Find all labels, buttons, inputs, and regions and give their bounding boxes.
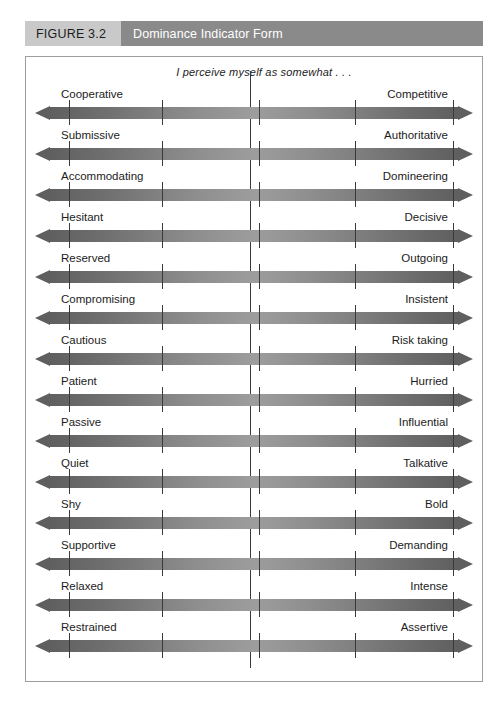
scale-tick-1[interactable]	[69, 141, 70, 166]
scale-tick-2[interactable]	[162, 592, 163, 617]
scale-tick-3[interactable]	[259, 223, 260, 248]
scale-tick-3[interactable]	[259, 141, 260, 166]
scale-tick-5[interactable]	[453, 264, 454, 289]
scale-tick-4[interactable]	[355, 592, 356, 617]
scale-tick-4[interactable]	[355, 469, 356, 494]
scale-tick-5[interactable]	[453, 592, 454, 617]
scale-row-11[interactable]: Shy Bold	[26, 495, 482, 536]
scale-tick-4[interactable]	[355, 551, 356, 576]
scale-tick-3[interactable]	[259, 305, 260, 330]
scale-arrow-bar[interactable]	[49, 148, 459, 160]
scale-row-2[interactable]: Submissive Authoritative	[26, 126, 482, 167]
scale-arrow-bar[interactable]	[49, 517, 459, 529]
scale-arrow-bar[interactable]	[49, 189, 459, 201]
scale-tick-2[interactable]	[162, 633, 163, 658]
scale-tick-1[interactable]	[69, 469, 70, 494]
scale-tick-4[interactable]	[355, 346, 356, 371]
scale-tick-2[interactable]	[162, 141, 163, 166]
scale-tick-2[interactable]	[162, 100, 163, 125]
scale-tick-5[interactable]	[453, 141, 454, 166]
scale-arrow-track[interactable]	[35, 147, 473, 161]
scale-arrow-bar[interactable]	[49, 230, 459, 242]
scale-tick-1[interactable]	[69, 346, 70, 371]
scale-tick-3[interactable]	[259, 264, 260, 289]
scale-arrow-track[interactable]	[35, 639, 473, 653]
scale-tick-1[interactable]	[69, 264, 70, 289]
scale-arrow-bar[interactable]	[49, 599, 459, 611]
scale-arrow-bar[interactable]	[49, 312, 459, 324]
scale-row-3[interactable]: Accommodating Domineering	[26, 167, 482, 208]
scale-tick-2[interactable]	[162, 469, 163, 494]
scale-row-4[interactable]: Hesitant Decisive	[26, 208, 482, 249]
scale-row-13[interactable]: Relaxed Intense	[26, 577, 482, 618]
scale-arrow-track[interactable]	[35, 311, 473, 325]
scale-arrow-track[interactable]	[35, 475, 473, 489]
scale-arrow-track[interactable]	[35, 557, 473, 571]
scale-tick-4[interactable]	[355, 387, 356, 412]
scale-tick-3[interactable]	[259, 551, 260, 576]
scale-arrow-track[interactable]	[35, 229, 473, 243]
scale-tick-5[interactable]	[453, 510, 454, 535]
scale-tick-5[interactable]	[453, 387, 454, 412]
scale-arrow-bar[interactable]	[49, 558, 459, 570]
scale-row-8[interactable]: Patient Hurried	[26, 372, 482, 413]
scale-arrow-track[interactable]	[35, 516, 473, 530]
scale-arrow-bar[interactable]	[49, 353, 459, 365]
scale-tick-3[interactable]	[259, 469, 260, 494]
scale-tick-2[interactable]	[162, 264, 163, 289]
scale-tick-5[interactable]	[453, 428, 454, 453]
scale-tick-3[interactable]	[259, 510, 260, 535]
scale-tick-4[interactable]	[355, 305, 356, 330]
scale-tick-5[interactable]	[453, 182, 454, 207]
scale-arrow-track[interactable]	[35, 434, 473, 448]
scale-tick-3[interactable]	[259, 387, 260, 412]
scale-tick-2[interactable]	[162, 551, 163, 576]
scale-tick-2[interactable]	[162, 428, 163, 453]
scale-tick-2[interactable]	[162, 182, 163, 207]
scale-tick-4[interactable]	[355, 428, 356, 453]
scale-tick-5[interactable]	[453, 223, 454, 248]
scale-arrow-bar[interactable]	[49, 271, 459, 283]
scale-row-9[interactable]: Passive Influential	[26, 413, 482, 454]
scale-row-7[interactable]: Cautious Risk taking	[26, 331, 482, 372]
scale-arrow-track[interactable]	[35, 270, 473, 284]
scale-tick-4[interactable]	[355, 100, 356, 125]
scale-tick-1[interactable]	[69, 387, 70, 412]
scale-tick-2[interactable]	[162, 387, 163, 412]
scale-arrow-bar[interactable]	[49, 107, 459, 119]
scale-arrow-bar[interactable]	[49, 640, 459, 652]
scale-tick-5[interactable]	[453, 551, 454, 576]
scale-tick-4[interactable]	[355, 633, 356, 658]
scale-tick-4[interactable]	[355, 141, 356, 166]
scale-tick-3[interactable]	[259, 182, 260, 207]
scale-tick-2[interactable]	[162, 346, 163, 371]
scale-tick-1[interactable]	[69, 305, 70, 330]
scale-tick-2[interactable]	[162, 510, 163, 535]
scale-row-5[interactable]: Reserved Outgoing	[26, 249, 482, 290]
scale-row-6[interactable]: Compromising Insistent	[26, 290, 482, 331]
scale-tick-2[interactable]	[162, 305, 163, 330]
scale-tick-1[interactable]	[69, 223, 70, 248]
scale-tick-5[interactable]	[453, 469, 454, 494]
scale-tick-3[interactable]	[259, 346, 260, 371]
scale-tick-2[interactable]	[162, 223, 163, 248]
scale-tick-5[interactable]	[453, 633, 454, 658]
scale-tick-4[interactable]	[355, 182, 356, 207]
scale-tick-3[interactable]	[259, 592, 260, 617]
scale-arrow-track[interactable]	[35, 352, 473, 366]
scale-tick-1[interactable]	[69, 510, 70, 535]
scale-row-12[interactable]: Supportive Demanding	[26, 536, 482, 577]
scale-arrow-track[interactable]	[35, 598, 473, 612]
scale-tick-1[interactable]	[69, 592, 70, 617]
scale-tick-3[interactable]	[259, 633, 260, 658]
scale-arrow-bar[interactable]	[49, 476, 459, 488]
scale-row-1[interactable]: Cooperative Competitive	[26, 85, 482, 126]
scale-row-14[interactable]: Restrained Assertive	[26, 618, 482, 659]
scale-tick-3[interactable]	[259, 100, 260, 125]
scale-tick-1[interactable]	[69, 182, 70, 207]
scale-tick-1[interactable]	[69, 428, 70, 453]
scale-arrow-bar[interactable]	[49, 394, 459, 406]
scale-tick-1[interactable]	[69, 551, 70, 576]
scale-tick-5[interactable]	[453, 346, 454, 371]
scale-tick-4[interactable]	[355, 510, 356, 535]
